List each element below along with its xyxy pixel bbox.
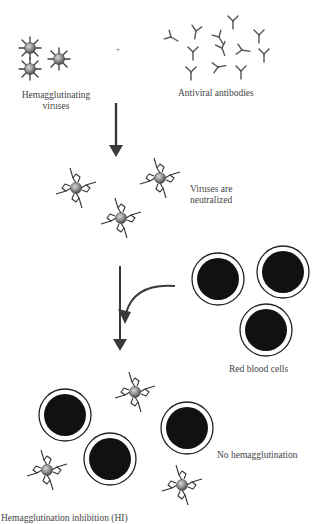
hemagglutinating-virus-icons [19, 37, 70, 80]
down-arrow-icon [109, 103, 123, 157]
label-line: Viruses are [190, 184, 232, 195]
antiviral-antibodies-label: Antiviral antibodies [178, 88, 254, 99]
mixture-red-blood-cells [39, 389, 213, 485]
hemagglutinating-viruses-label: Hemagglutinating viruses [6, 90, 106, 112]
antibody-icons [164, 16, 269, 80]
curved-arrow-icon [118, 286, 175, 324]
label-line: Hemagglutinating [6, 90, 106, 101]
plus-sign: + [116, 45, 121, 54]
figure-caption: Hemagglutination inhibition (HI) [1, 513, 128, 524]
label-line: viruses [6, 101, 106, 112]
down-arrow-icon [113, 266, 127, 351]
no-hemagglutination-label: No hemagglutination [217, 450, 297, 461]
viruses-neutralized-label: Viruses are neutralized [190, 184, 232, 206]
label-line: neutralized [190, 195, 232, 206]
red-blood-cells-label: Red blood cells [229, 364, 288, 375]
neutralized-virus-icons [56, 158, 180, 238]
red-blood-cell-icons [192, 246, 309, 356]
